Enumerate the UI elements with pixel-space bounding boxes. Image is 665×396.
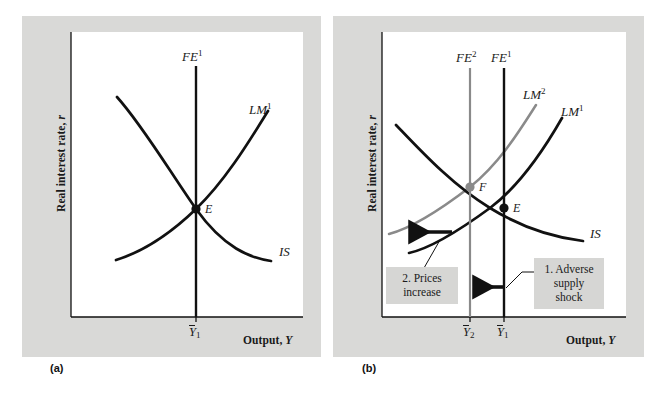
panel-b-y-axis-title: Real interest rate, r — [367, 115, 379, 212]
callout-prices-increase: 2. Prices increase — [386, 267, 458, 304]
panel-b-point-F-marker — [465, 182, 474, 191]
panel-b-point-E-label: E — [513, 202, 520, 214]
callout-adverse-supply-shock: 1. Adverse supply shock — [534, 258, 604, 309]
panel-b-label-FE2: FE2 — [456, 51, 476, 64]
panel-b-curve-IS — [396, 125, 583, 241]
panel-b-x-axis-title: Output, Y — [566, 335, 615, 347]
panel-b-xtick-label-Ybar1: Y1 — [497, 326, 508, 339]
callout-prices-increase-line1: 2. Prices — [393, 271, 451, 285]
panel-b-label-IS: IS — [590, 227, 601, 240]
panel-b-point-E-marker — [499, 203, 508, 212]
panel-b-label-LM2: LM2 — [523, 88, 546, 101]
panel-b-xtick-label-Ybar2: Y2 — [463, 326, 474, 339]
panel-b-leader-adverse-shock — [506, 272, 534, 288]
callout-adverse-supply-shock-line3: shock — [541, 290, 597, 304]
panel-b-caption: (b) — [362, 363, 376, 374]
panel-b-point-F-label: F — [479, 181, 486, 193]
figure-container: FE1 LM1 IS E Y1 Real interest rate, r Ou… — [0, 0, 665, 396]
callout-adverse-supply-shock-line2: supply — [541, 276, 597, 290]
panel-b-label-FE1: FE1 — [491, 51, 511, 64]
callout-prices-increase-line2: increase — [393, 285, 451, 299]
callout-adverse-supply-shock-line1: 1. Adverse — [541, 262, 597, 276]
panel-b-label-LM1: LM1 — [561, 105, 584, 118]
